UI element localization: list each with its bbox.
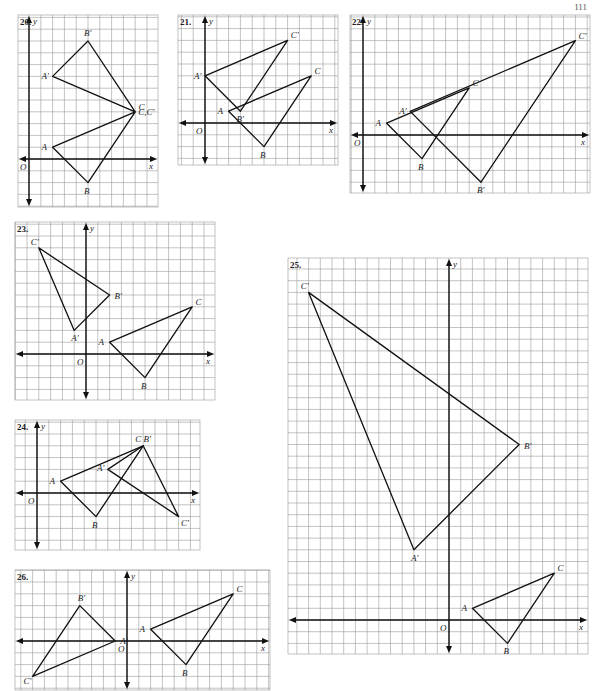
- axis-arrow-icon: [179, 120, 186, 126]
- axis-arrow-icon: [16, 638, 23, 644]
- vertex-label: A′: [193, 71, 202, 81]
- axis-arrow-icon: [446, 646, 452, 653]
- vertex-label: C′: [579, 31, 588, 41]
- vertex-label: B: [504, 646, 510, 656]
- vertex-label: A′: [96, 463, 105, 473]
- page-number: 111: [574, 2, 587, 12]
- y-axis-label: y: [89, 223, 94, 233]
- vertex-label: B′: [84, 28, 92, 38]
- axes: [179, 16, 337, 164]
- graph-exercise-25: xyO25.ABCA′B′C′: [288, 258, 588, 654]
- graph-svg: xyO24.ABA′C′C B′: [15, 420, 200, 550]
- graph-exercise-21: xyO21.ABCA′B′C′: [178, 15, 338, 165]
- axis-arrow-icon: [202, 157, 208, 164]
- exercise-number: 24.: [17, 422, 28, 432]
- axis-arrow-icon: [360, 185, 366, 192]
- y-axis-label: y: [40, 421, 45, 431]
- x-axis-label: x: [148, 161, 153, 171]
- y-axis-label: y: [130, 571, 135, 581]
- y-axis-label: y: [32, 16, 37, 26]
- x-axis-label: x: [260, 643, 265, 653]
- vertex-label: C: [314, 66, 321, 76]
- y-axis-label: y: [208, 16, 213, 26]
- y-axis-label: y: [366, 16, 371, 26]
- axis-arrow-icon: [16, 490, 23, 496]
- origin-label: O: [354, 138, 361, 148]
- graph-exercise-20: xyO20.ABCA′B′C,C′: [18, 15, 158, 207]
- vertex-label: B: [141, 381, 147, 391]
- vertex-label: C′: [291, 30, 300, 40]
- y-axis-label: y: [452, 259, 457, 269]
- axis-arrow-icon: [34, 542, 40, 549]
- vertex-label: B: [182, 668, 188, 678]
- vertex-label: A′: [119, 636, 128, 646]
- vertex-label: C′: [181, 518, 190, 528]
- vertex-label: A′: [410, 553, 419, 563]
- graph-svg: xyO21.ABCA′B′C′: [178, 15, 338, 165]
- grid-lines: [350, 15, 590, 193]
- grid-lines: [178, 15, 338, 165]
- vertex-label: C′: [31, 237, 40, 247]
- graph-svg: xyO23.ABCA′B′C′: [15, 222, 215, 400]
- graph-svg: xyO26.ABCA′B′C′: [15, 570, 270, 690]
- x-axis-label: x: [190, 495, 195, 505]
- vertex-label: A′: [70, 333, 79, 343]
- vertex-label: B′: [524, 441, 532, 451]
- origin-label: O: [28, 496, 35, 506]
- x-axis-label: x: [578, 622, 583, 632]
- exercise-number: 25.: [290, 260, 301, 270]
- vertex-label: A′: [398, 106, 407, 116]
- x-axis-label: x: [328, 125, 333, 135]
- grid-lines: [15, 222, 215, 400]
- exercise-number: 23.: [17, 224, 28, 234]
- vertex-label: B′: [115, 291, 123, 301]
- vertex-label: A: [41, 142, 48, 152]
- vertex-label: A: [98, 337, 105, 347]
- graph-svg: xyO25.ABCA′B′C′: [288, 258, 588, 654]
- vertex-label: A: [217, 106, 224, 116]
- vertex-label: A: [49, 476, 56, 486]
- origin-label: O: [440, 623, 447, 633]
- graph-svg: xyO20.ABCA′B′C,C′: [18, 15, 158, 207]
- vertex-label: C,C′: [138, 107, 155, 117]
- grid-lines: [15, 420, 200, 550]
- origin-label: O: [196, 126, 203, 136]
- origin-label: O: [77, 357, 84, 367]
- vertex-label: B: [260, 150, 266, 160]
- vertex-label: C′: [23, 676, 32, 686]
- axis-arrow-icon: [289, 617, 296, 623]
- exercise-number: 26.: [17, 572, 28, 582]
- axis-arrow-icon: [26, 199, 32, 206]
- exercise-number: 22.: [352, 17, 363, 27]
- graph-exercise-22: xyO22.ABCA′B′C′: [350, 15, 590, 193]
- grid-lines: [288, 258, 588, 654]
- x-axis-label: x: [580, 137, 585, 147]
- axis-arrow-icon: [83, 392, 89, 399]
- graph-exercise-26: xyO26.ABCA′B′C′: [15, 570, 270, 690]
- graph-exercise-24: xyO24.ABA′C′C B′: [15, 420, 200, 550]
- axis-arrow-icon: [446, 259, 452, 266]
- vertex-label: B: [84, 186, 90, 196]
- vertex-label: B′: [477, 185, 485, 195]
- vertex-label: A: [375, 118, 382, 128]
- exercise-number: 21.: [180, 17, 191, 27]
- vertex-label: C: [236, 584, 243, 594]
- vertex-label: A: [139, 624, 146, 634]
- vertex-label: B: [92, 520, 98, 530]
- exercise-number: 20.: [20, 17, 31, 27]
- vertex-label: C: [195, 297, 202, 307]
- vertex-label: C: [557, 563, 564, 573]
- vertex-label: B′: [237, 114, 245, 124]
- x-axis-label: x: [205, 356, 210, 366]
- axis-arrow-icon: [124, 571, 130, 578]
- vertex-label: A: [460, 603, 467, 613]
- axis-arrow-icon: [16, 351, 23, 357]
- vertex-label: B: [418, 162, 424, 172]
- graph-svg: xyO22.ABCA′B′C′: [350, 15, 590, 193]
- vertex-label: C′: [301, 281, 310, 291]
- vertex-label: B′: [78, 593, 86, 603]
- grid-lines: [18, 15, 158, 207]
- origin-label: O: [20, 162, 27, 172]
- axes: [16, 223, 214, 399]
- vertex-label: C B′: [135, 434, 152, 444]
